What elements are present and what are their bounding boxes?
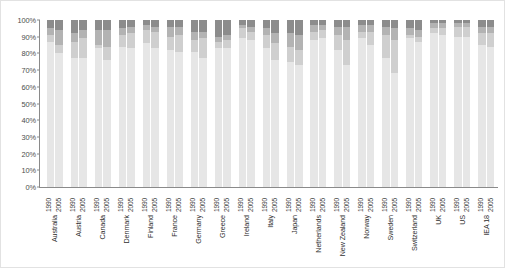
- year-label: 2005: [199, 190, 208, 212]
- stacked-bar[interactable]: [71, 20, 79, 187]
- stacked-bar[interactable]: [143, 20, 151, 187]
- stacked-bar[interactable]: [199, 20, 207, 187]
- country-label: Australia: [50, 215, 59, 242]
- bar-group: [283, 20, 307, 187]
- bar-segment-1: [175, 52, 183, 187]
- bar-segment-3: [478, 27, 486, 34]
- bar-segment-2: [215, 42, 223, 49]
- stacked-bar[interactable]: [382, 20, 390, 187]
- bar-segment-2: [127, 33, 135, 48]
- country-label: Denmark: [122, 215, 131, 243]
- stacked-bar[interactable]: [478, 20, 486, 187]
- stacked-bar[interactable]: [310, 20, 318, 187]
- stacked-bar[interactable]: [191, 20, 199, 187]
- stacked-bar[interactable]: [358, 20, 366, 187]
- stacked-bar[interactable]: [103, 20, 111, 187]
- bar-segment-2: [79, 38, 87, 58]
- bar-segment-1: [487, 47, 495, 187]
- x-group-label: 19902005France: [162, 190, 186, 266]
- bar-segment-2: [143, 30, 151, 43]
- bar-segment-4: [175, 20, 183, 27]
- bar-segment-3: [47, 28, 55, 35]
- stacked-bar[interactable]: [439, 20, 447, 187]
- stacked-bar[interactable]: [415, 20, 423, 187]
- stacked-bar[interactable]: [79, 20, 87, 187]
- stacked-bar[interactable]: [487, 20, 495, 187]
- stacked-bar[interactable]: [343, 20, 351, 187]
- bar-segment-4: [95, 20, 103, 30]
- x-group-label: 19902005Finland: [138, 190, 162, 266]
- x-group-label: 19902005IEA 18: [474, 190, 498, 266]
- year-label: 1990: [213, 190, 222, 212]
- bar-segment-4: [382, 20, 390, 27]
- stacked-bar[interactable]: [287, 20, 295, 187]
- stacked-bar[interactable]: [247, 20, 255, 187]
- stacked-bar[interactable]: [215, 20, 223, 187]
- bar-group: [450, 20, 474, 187]
- x-axis-labels: 19902005Australia19902005Austria19902005…: [39, 190, 498, 266]
- stacked-bar[interactable]: [175, 20, 183, 187]
- stacked-bar[interactable]: [334, 20, 342, 187]
- bar-segment-3: [71, 33, 79, 41]
- bar-group: [43, 20, 67, 187]
- bar-segment-3: [271, 33, 279, 43]
- bar-segment-1: [247, 40, 255, 187]
- bar-segment-4: [79, 20, 87, 30]
- bar-segment-2: [367, 32, 375, 45]
- bar-segment-2: [55, 45, 63, 53]
- stacked-bar[interactable]: [406, 20, 414, 187]
- bar-segment-1: [478, 45, 486, 187]
- stacked-bar[interactable]: [367, 20, 375, 187]
- bar-segment-3: [199, 32, 207, 39]
- year-label: 2005: [127, 190, 136, 212]
- stacked-bar[interactable]: [151, 20, 159, 187]
- year-label: 1990: [45, 190, 54, 212]
- bar-segment-4: [47, 20, 55, 28]
- bar-segment-2: [119, 35, 127, 47]
- bar-segment-2: [439, 28, 447, 35]
- year-label: 2005: [439, 190, 448, 212]
- stacked-bar[interactable]: [319, 20, 327, 187]
- bar-group: [426, 20, 450, 187]
- stacked-bar[interactable]: [263, 20, 271, 187]
- stacked-bar[interactable]: [391, 20, 399, 187]
- year-label: 1990: [261, 190, 270, 212]
- bar-segment-1: [391, 73, 399, 187]
- stacked-bar[interactable]: [119, 20, 127, 187]
- bar-segment-4: [223, 20, 231, 35]
- stacked-bar[interactable]: [127, 20, 135, 187]
- x-group-label: 19902005Germany: [186, 190, 210, 266]
- stacked-bar[interactable]: [55, 20, 63, 187]
- bar-segment-3: [119, 28, 127, 35]
- stacked-bar[interactable]: [271, 20, 279, 187]
- stacked-bar[interactable]: [295, 20, 303, 187]
- stacked-bar[interactable]: [463, 20, 471, 187]
- stacked-bar[interactable]: [430, 20, 438, 187]
- stacked-bar[interactable]: [454, 20, 462, 187]
- bar-segment-2: [358, 32, 366, 39]
- bar-segment-1: [103, 60, 111, 187]
- bar-segment-4: [271, 20, 279, 33]
- year-label: 2005: [271, 190, 280, 212]
- chart-figure: 0%10%20%30%40%50%60%70%80%90%100% 199020…: [0, 0, 505, 268]
- bar-segment-2: [319, 30, 327, 38]
- bar-segment-1: [334, 50, 342, 187]
- stacked-bar[interactable]: [239, 20, 247, 187]
- year-label: 1990: [285, 190, 294, 212]
- stacked-bar[interactable]: [223, 20, 231, 187]
- x-group-label: 19902005US: [450, 190, 474, 266]
- bar-segment-4: [263, 20, 271, 28]
- bar-segment-2: [454, 27, 462, 37]
- bar-segment-1: [463, 37, 471, 187]
- bar-segment-4: [478, 20, 486, 27]
- stacked-bar[interactable]: [95, 20, 103, 187]
- stacked-bar[interactable]: [167, 20, 175, 187]
- bar-segment-3: [167, 27, 175, 37]
- bar-group: [474, 20, 498, 187]
- bar-segment-4: [167, 20, 175, 27]
- stacked-bar[interactable]: [47, 20, 55, 187]
- country-label: US: [458, 215, 467, 225]
- year-label: 1990: [141, 190, 150, 212]
- x-group-label: 19902005Canada: [90, 190, 114, 266]
- bar-segment-1: [95, 48, 103, 187]
